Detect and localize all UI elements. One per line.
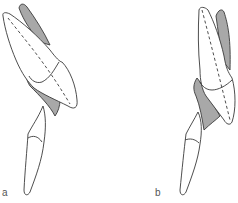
panel-a-lower-tooth: [24, 106, 45, 195]
panel-b-lower-tooth: [180, 112, 201, 195]
panel-b-drawing: [180, 7, 235, 194]
panel-label-a: a: [2, 188, 8, 198]
panel-a-drawing: [3, 4, 77, 195]
panel-label-b: b: [155, 188, 161, 198]
teeth-drawing: [0, 0, 238, 203]
dental-illustration: a b: [0, 0, 238, 203]
